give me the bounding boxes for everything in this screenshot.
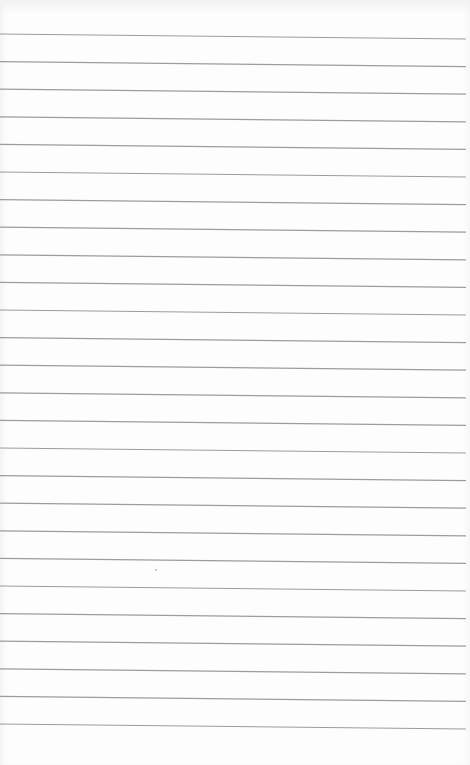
ruled-line	[0, 227, 466, 232]
ruled-lines	[0, 0, 470, 765]
ruled-line	[0, 476, 466, 481]
ruled-line	[0, 365, 466, 370]
ruled-line	[0, 144, 466, 149]
ruled-line	[0, 531, 466, 536]
notepad-page	[0, 0, 470, 765]
ruled-line	[0, 614, 466, 619]
ruled-line	[0, 586, 466, 591]
stray-mark	[155, 569, 157, 571]
ruled-line	[0, 200, 466, 205]
ruled-line	[0, 669, 466, 674]
ruled-line	[0, 310, 466, 315]
ruled-line	[0, 117, 466, 122]
ruled-line	[0, 503, 466, 508]
ruled-line	[0, 89, 466, 94]
ruled-line	[0, 448, 466, 453]
ruled-line	[0, 62, 466, 67]
ruled-line	[0, 696, 466, 701]
ruled-line	[0, 558, 466, 563]
ruled-line	[0, 420, 466, 425]
ruled-line	[0, 172, 466, 177]
ruled-line	[0, 282, 466, 287]
ruled-line	[0, 338, 466, 343]
ruled-line	[0, 641, 466, 646]
ruled-line	[0, 724, 466, 729]
ruled-line	[0, 393, 466, 398]
ruled-line	[0, 34, 466, 39]
ruled-line	[0, 255, 466, 260]
